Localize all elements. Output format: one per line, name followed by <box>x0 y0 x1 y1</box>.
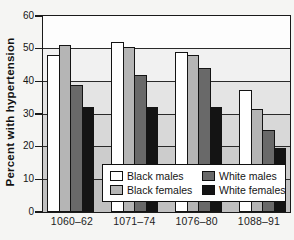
legend-item-white-males: White males <box>202 170 286 182</box>
y-tick-label: 10 <box>0 173 34 184</box>
y-tick-label: 0 <box>0 206 34 217</box>
x-tick-label: 1088–91 <box>233 215 285 227</box>
y-tick-label: 20 <box>0 140 34 151</box>
y-tick-mark <box>35 48 42 49</box>
bar-group-1060–62 <box>47 16 94 212</box>
y-tick-mark <box>35 15 42 16</box>
y-tick-label: 60 <box>0 10 34 21</box>
black-females-swatch-icon <box>110 185 123 195</box>
y-tick-mark <box>35 211 42 212</box>
y-tick-mark <box>35 146 42 147</box>
y-axis-tick-labels: 0102030405060 <box>0 15 34 211</box>
legend-label: Black females <box>127 184 192 196</box>
legend-label: White females <box>219 184 286 196</box>
legend-item-black-females: Black females <box>110 184 202 196</box>
black-males-swatch-icon <box>110 171 123 181</box>
legend: Black males White males Black females Wh… <box>102 164 286 202</box>
x-tick-label: 1060–62 <box>46 215 98 227</box>
legend-label: White males <box>219 170 277 182</box>
legend-label: Black males <box>127 170 184 182</box>
y-tick-label: 50 <box>0 42 34 53</box>
white-males-swatch-icon <box>202 171 215 181</box>
x-tick-label: 1071–74 <box>108 215 160 227</box>
hypertension-bar-chart: Percent with hypertension 0102030405060 … <box>0 0 294 240</box>
y-tick-mark <box>35 179 42 180</box>
y-tick-label: 30 <box>0 108 34 119</box>
y-tick-label: 40 <box>0 75 34 86</box>
x-axis-tick-labels: 1060–621071–741076–801088–91 <box>42 215 289 227</box>
y-tick-mark <box>35 81 42 82</box>
white-females-swatch-icon <box>202 185 215 195</box>
y-tick-mark <box>35 113 42 114</box>
legend-item-white-females: White females <box>202 184 286 196</box>
x-tick-label: 1076–80 <box>171 215 223 227</box>
bar-white-females <box>82 107 95 212</box>
legend-item-black-males: Black males <box>110 170 202 182</box>
